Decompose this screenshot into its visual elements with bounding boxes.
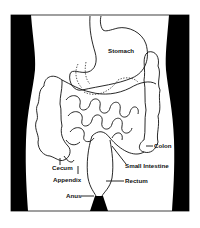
label-stomach: Stomach xyxy=(108,47,134,54)
digestive-system-diagram: Stomach Colon Cecum Appendix Small Intes… xyxy=(0,0,200,228)
label-rectum: Rectum xyxy=(125,177,148,184)
label-appendix: Appendix xyxy=(53,176,82,183)
label-cecum: Cecum xyxy=(52,164,73,171)
label-small-intestine: Small Intestine xyxy=(125,162,169,169)
label-colon: Colon xyxy=(154,142,172,149)
label-anus: Anus xyxy=(66,192,82,199)
